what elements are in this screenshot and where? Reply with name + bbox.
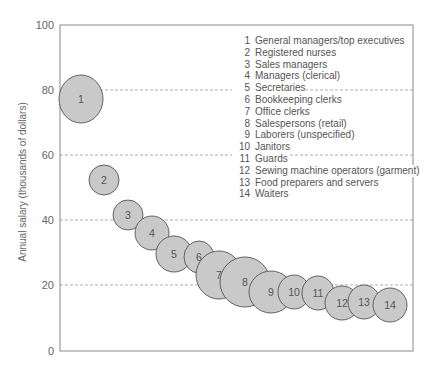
- legend-item-label: Sales managers: [255, 59, 327, 71]
- legend-item: 3Sales managers: [232, 59, 420, 71]
- bubble-label: 3: [125, 209, 131, 221]
- bubble-label: 1: [78, 93, 84, 105]
- bubble-14: 14: [373, 288, 407, 322]
- legend-item-number: 9: [232, 129, 255, 141]
- bubble-label: 5: [171, 248, 177, 260]
- legend-item: 9Laborers (unspecified): [232, 129, 420, 141]
- bubble-label: 11: [313, 287, 324, 299]
- legend-item-number: 12: [232, 165, 255, 177]
- legend-item: 7Office clerks: [232, 106, 420, 118]
- legend-item-number: 8: [232, 118, 255, 130]
- bubble-1: 1: [59, 75, 103, 123]
- bubble-label: 2: [101, 174, 107, 186]
- y-axis-ticks: 100 80 60 40 20 0: [36, 19, 54, 357]
- legend-item-label: Guards: [255, 153, 288, 165]
- legend-item: 4Managers (clerical): [232, 70, 420, 82]
- legend-item-label: Laborers (unspecified): [255, 129, 355, 141]
- y-axis-label: Annual salary (thousands of dollars): [17, 102, 28, 262]
- legend-item-number: 13: [232, 177, 255, 189]
- legend-item-label: Office clerks: [255, 106, 310, 118]
- y-tick-100: 100: [36, 19, 54, 31]
- y-tick-0: 0: [48, 345, 54, 357]
- legend-item-label: Secretaries: [255, 82, 306, 94]
- y-tick-20: 20: [42, 279, 54, 291]
- bubble-label: 8: [242, 276, 248, 288]
- bubble-2: 2: [89, 165, 119, 195]
- bubble-label: 13: [358, 296, 370, 308]
- legend-item: 13Food preparers and servers: [232, 177, 420, 189]
- legend-item-label: Bookkeeping clerks: [255, 94, 342, 106]
- legend-item: 5Secretaries: [232, 82, 420, 94]
- legend-item-number: 5: [232, 82, 255, 94]
- legend-item-number: 6: [232, 94, 255, 106]
- bubble-label: 14: [384, 299, 396, 311]
- legend-item: 2Registered nurses: [232, 47, 420, 59]
- bubble-label: 9: [268, 286, 274, 298]
- legend-item: 6Bookkeeping clerks: [232, 94, 420, 106]
- bubble-label: 10: [288, 286, 300, 298]
- legend-item-label: Managers (clerical): [255, 70, 340, 82]
- legend-item-number: 7: [232, 106, 255, 118]
- y-tick-40: 40: [42, 214, 54, 226]
- legend-item-number: 2: [232, 47, 255, 59]
- legend-item: 10Janitors: [232, 141, 420, 153]
- legend: 1General managers/top executives2Registe…: [232, 35, 420, 200]
- legend-item-number: 10: [232, 141, 255, 153]
- legend-item-label: Salespersons (retail): [255, 118, 347, 130]
- legend-item: 8Salespersons (retail): [232, 118, 420, 130]
- legend-item-label: General managers/top executives: [255, 35, 405, 47]
- legend-item-number: 11: [232, 153, 255, 165]
- legend-item-label: Registered nurses: [255, 47, 336, 59]
- legend-item: 1General managers/top executives: [232, 35, 420, 47]
- bubble-label: 4: [149, 227, 155, 239]
- legend-item-label: Waiters: [255, 188, 289, 200]
- legend-item: 11Guards: [232, 153, 420, 165]
- y-tick-60: 60: [42, 149, 54, 161]
- legend-item-label: Janitors: [255, 141, 290, 153]
- legend-item-label: Food preparers and servers: [255, 177, 378, 189]
- legend-item-number: 3: [232, 59, 255, 71]
- legend-item-number: 1: [232, 35, 255, 47]
- y-tick-80: 80: [42, 84, 54, 96]
- legend-item-number: 4: [232, 70, 255, 82]
- legend-item: 12Sewing machine operators (garment): [232, 165, 420, 177]
- legend-item-number: 14: [232, 188, 255, 200]
- legend-item: 14Waiters: [232, 188, 420, 200]
- legend-item-label: Sewing machine operators (garment): [255, 165, 420, 177]
- bubble-label: 12: [336, 297, 348, 309]
